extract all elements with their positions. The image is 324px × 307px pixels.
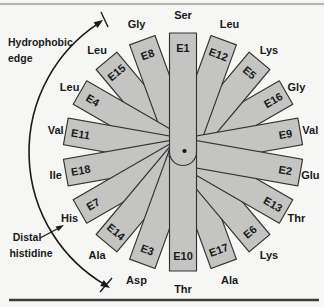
helical-wheel-figure: E1E2E3E4E5E6E7E8E9E10E11E12E13E14E15E16E… (0, 0, 324, 307)
hydrophobic-edge-label-line1: Hydrophobic (8, 36, 73, 48)
distal-histidine-label-line2: histidine (9, 247, 52, 259)
residue-label-E18: Ile (50, 169, 62, 181)
residue-label-E15: Leu (87, 44, 107, 56)
residue-label-E16: Gly (288, 81, 307, 93)
residue-label-E11: Val (48, 124, 64, 136)
arc-arrowhead-top (94, 20, 103, 28)
distal-histidine-label-line1: Distal (13, 231, 42, 243)
residue-label-E14: Ala (89, 249, 107, 261)
residue-label-E13: Thr (288, 212, 306, 224)
position-label-E10: E10 (173, 250, 193, 262)
residue-label-E9: Val (302, 124, 318, 136)
residue-label-E3: Asp (126, 274, 147, 286)
wheel: E1E2E3E4E5E6E7E8E9E10E11E12E13E14E15E16E… (0, 0, 324, 307)
edge-tick-top (101, 12, 108, 27)
distal-histidine-arrowhead (56, 225, 64, 231)
position-label-E2: E2 (278, 163, 293, 177)
residue-label-E1: Ser (174, 9, 192, 21)
residue-label-E12: Leu (220, 18, 240, 30)
residue-label-E2: Glu (301, 169, 319, 181)
residue-label-E17: Ala (221, 274, 239, 286)
position-label-E1: E1 (176, 42, 189, 54)
helix-axis-dot (182, 149, 186, 153)
residue-label-E6: Lys (260, 249, 279, 261)
residue-label-E5: Lys (260, 44, 279, 56)
residue-label-E4: Leu (60, 81, 80, 93)
residue-label-E7: His (61, 212, 78, 224)
residue-label-E8: Gly (128, 18, 147, 30)
residue-label-E10: Thr (174, 283, 192, 295)
hydrophobic-edge-label-line2: edge (8, 52, 33, 64)
position-label-E9: E9 (278, 127, 293, 141)
